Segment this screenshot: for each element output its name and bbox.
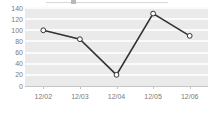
data-point-marker — [187, 33, 192, 38]
x-axis-tick-label: 12/03 — [60, 93, 100, 101]
x-axis-tick-mark — [190, 86, 191, 89]
series-line — [43, 14, 189, 75]
data-point-marker — [151, 11, 156, 16]
x-axis-tick-label: 12/05 — [133, 93, 173, 101]
x-axis-tick-mark — [43, 86, 44, 89]
x-axis-tick-mark — [117, 86, 118, 89]
data-point-marker — [78, 37, 83, 42]
x-axis-tick-label: 12/06 — [170, 93, 210, 101]
series-markers — [41, 11, 192, 77]
data-point-marker — [114, 72, 119, 77]
data-point-marker — [41, 28, 46, 33]
x-axis-tick-label: 12/04 — [97, 93, 137, 101]
x-axis-tick-label: 12/02 — [23, 93, 63, 101]
x-axis-tick-mark — [80, 86, 81, 89]
x-axis-tick-mark — [153, 86, 154, 89]
line-chart: 020406080100120140 12/0212/0312/0412/051… — [0, 0, 212, 114]
